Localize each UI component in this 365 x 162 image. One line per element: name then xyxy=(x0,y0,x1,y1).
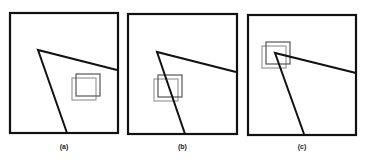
corner-polyline xyxy=(38,50,117,133)
diagram-canvas xyxy=(0,0,365,162)
corner-polyline xyxy=(157,52,236,134)
panel-c xyxy=(248,15,356,135)
panel-frame xyxy=(128,14,237,134)
panel-frame xyxy=(248,15,356,135)
panel-a xyxy=(10,13,118,133)
panel-frame xyxy=(10,13,118,133)
panel-b xyxy=(128,14,237,134)
corner-polyline xyxy=(275,53,356,134)
